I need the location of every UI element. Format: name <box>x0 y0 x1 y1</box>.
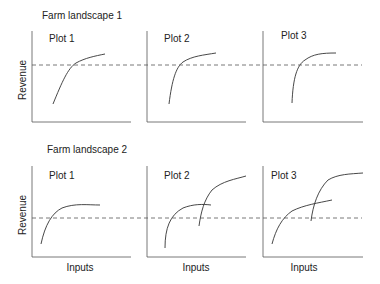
landscape-2-plot-3: Plot 3 Inputs <box>263 166 363 273</box>
plot-xlabel: Inputs <box>290 262 317 273</box>
plot-label: Plot 1 <box>49 170 75 181</box>
plot-label: Plot 2 <box>164 33 190 44</box>
landscape-1-ylabel: Revenue <box>17 60 28 100</box>
landscape-1-plot-1: Plot 1 <box>32 31 131 122</box>
landscape-2-title: Farm landscape 2 <box>47 144 127 155</box>
landscape-2-plot-2: Plot 2 Inputs <box>147 166 246 273</box>
plot-xlabel: Inputs <box>182 262 209 273</box>
landscape-2-ylabel: Revenue <box>17 195 28 235</box>
plot-label: Plot 3 <box>281 30 307 41</box>
plot-xlabel: Inputs <box>66 262 93 273</box>
landscape-1-title: Farm landscape 1 <box>42 10 122 21</box>
landscape-1-plot-3: Plot 3 <box>263 30 363 122</box>
plot-label: Plot 3 <box>271 170 297 181</box>
landscape-2-plot-1: Plot 1 Inputs <box>32 166 131 273</box>
farm-landscape-diagram: Farm landscape 1 Revenue Plot 1 Plot 2 P… <box>0 0 380 284</box>
landscape-1-plot-2: Plot 2 <box>147 31 246 122</box>
plot-label: Plot 2 <box>164 170 190 181</box>
plot-label: Plot 1 <box>49 33 75 44</box>
